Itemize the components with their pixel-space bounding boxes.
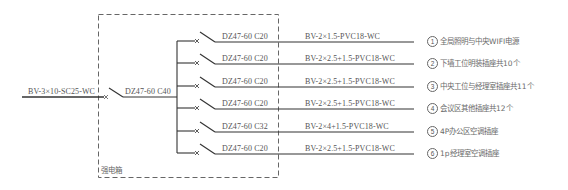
circuit-description-5: 5 4P办公区空调插座	[427, 126, 498, 137]
circuit-number-badge: 5	[427, 126, 438, 137]
circuit-description-text: 1p经理室空调插座	[440, 149, 499, 158]
cable-label-4: BV-2×2.5+1.5-PVC18-WC	[305, 99, 395, 108]
cable-label-6: BV-2×2.5+1.5-PVC18-WC	[305, 144, 395, 153]
incoming-cable-label: BV-3×10-SC25-WC	[28, 87, 95, 96]
circuit-description-1: 1 全局照明与中央WIFI电源	[427, 36, 519, 47]
cable-label-3: BV-2×2.5+1.5-PVC18-WC	[305, 77, 395, 86]
circuit-number-badge: 6	[427, 148, 438, 159]
distribution-box-label: 强电箱	[101, 166, 122, 175]
breaker-label-2: DZ47-60 C20	[222, 54, 268, 63]
breaker-label-4: DZ47-60 C20	[222, 99, 268, 108]
circuit-description-text: 中央工位与经理室插座共11个	[440, 82, 534, 91]
breaker-label-1: DZ47-60 C20	[222, 32, 268, 41]
circuit-description-6: 6 1p经理室空调插座	[427, 148, 499, 159]
circuit-description-text: 会议区其他插座共12个	[440, 104, 513, 113]
cable-label-2: BV-2×2.5+1.5-PVC18-WC	[305, 54, 395, 63]
breaker-label-5: DZ47-60 C32	[222, 122, 268, 131]
circuit-description-text: 下墙工位明装插座共10个	[440, 59, 520, 68]
circuit-description-text: 4P办公区空调插座	[440, 127, 498, 136]
breaker-label-6: DZ47-60 C20	[222, 144, 268, 153]
circuit-description-4: 4 会议区其他插座共12个	[427, 103, 513, 114]
circuit-number-badge: 4	[427, 103, 438, 114]
circuit-number-badge: 2	[427, 58, 438, 69]
cable-label-5: BV-2×4+1.5-PVC18-WC	[305, 122, 389, 131]
breaker-label-3: DZ47-60 C20	[222, 77, 268, 86]
circuit-number-badge: 3	[427, 81, 438, 92]
circuit-number-badge: 1	[427, 36, 438, 47]
circuit-description-text: 全局照明与中央WIFI电源	[440, 37, 519, 46]
circuit-description-2: 2 下墙工位明装插座共10个	[427, 58, 520, 69]
circuit-description-3: 3 中央工位与经理室插座共11个	[427, 81, 534, 92]
main-breaker-contact	[109, 88, 123, 97]
cable-label-1: BV-2×1.5-PVC18-WC	[305, 32, 380, 41]
main-breaker-label: DZ47-60 C40	[125, 87, 171, 96]
main-breaker-x-mark	[104, 95, 108, 99]
